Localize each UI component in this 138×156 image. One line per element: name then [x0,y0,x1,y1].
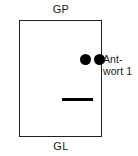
top-edge-label-gp: GP [19,3,103,15]
field-rectangle [19,20,102,137]
annotation-line-2: wort 1 [103,66,138,78]
answer-diagram: GP Ant- wort 1 GL [0,0,138,156]
answer-annotation: Ant- wort 1 [103,54,138,77]
bottom-edge-label-gl: GL [19,140,103,152]
annotation-line-1: Ant- [103,54,138,66]
horizontal-dash-mark-icon [62,98,93,101]
filled-dot-left-icon [80,54,91,65]
